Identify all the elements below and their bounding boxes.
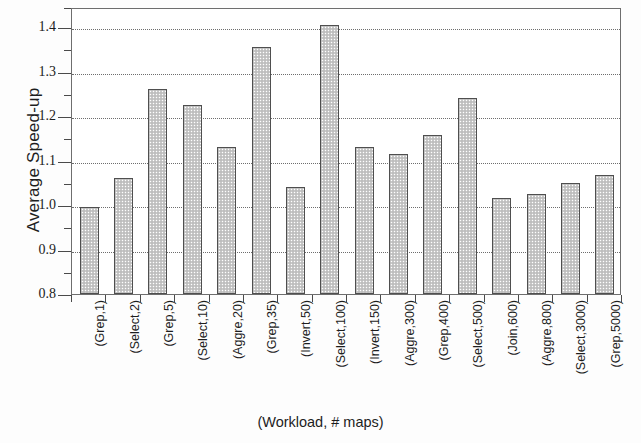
chart-figure: Average Speed-up 0.80.91.01.11.21.31.4 (…	[0, 0, 641, 443]
x-tick-label: (Select,100)	[334, 300, 348, 367]
y-tick-label: 1.3	[12, 64, 56, 80]
x-tick-label: (Invert,150)	[368, 300, 382, 364]
bar-rect	[458, 98, 477, 294]
y-tick-1-1	[58, 162, 71, 163]
y-minor-tick	[64, 50, 71, 51]
bar-rect	[217, 147, 236, 294]
y-tick-1	[58, 206, 71, 207]
y-minor-tick	[64, 95, 71, 96]
x-tick-label: (Grep,5)	[162, 300, 176, 347]
y-tick-label: 1.0	[12, 197, 56, 213]
bar-rect	[252, 47, 271, 294]
bar-series	[72, 9, 620, 294]
y-tick-label: 1.2	[12, 108, 56, 124]
plot-area	[71, 8, 621, 295]
bar-rect	[423, 135, 442, 294]
y-tick-1-4	[58, 28, 71, 29]
bar-rect	[114, 178, 133, 294]
x-axis-title: (Workload, # maps)	[0, 414, 641, 430]
x-tick-label: (Aggre,800)	[540, 300, 554, 366]
bar-rect	[148, 89, 167, 294]
y-tick-label: 0.9	[12, 242, 56, 258]
x-tick-label: (Invert,50)	[299, 300, 313, 357]
y-tick-label: 1.1	[12, 153, 56, 169]
bar-rect	[389, 154, 408, 294]
y-tick-1-2	[58, 117, 71, 118]
x-tick-label: (Select,2)	[128, 300, 142, 354]
y-minor-tick	[64, 273, 71, 274]
y-tick-label: 1.4	[12, 19, 56, 35]
x-tick-label: (Select,10)	[196, 300, 210, 360]
x-tick-label: (Grep,35)	[265, 300, 279, 354]
x-tick	[71, 295, 72, 302]
x-tick-label: (Aggre,300)	[403, 300, 417, 366]
x-tick-label: (Join,600)	[506, 300, 520, 356]
bar-rect	[595, 175, 614, 294]
bar-rect	[320, 25, 339, 294]
bar-rect	[183, 105, 202, 294]
y-tick-0-8	[58, 295, 71, 296]
y-tick-1-3	[58, 73, 71, 74]
bar-rect	[286, 187, 305, 294]
x-tick-label: (Aggre,20)	[231, 300, 245, 359]
bar-rect	[492, 198, 511, 294]
x-tick-label: (Grep,400)	[437, 300, 451, 360]
x-tick-label: (Select,500)	[471, 300, 485, 367]
x-tick-label: (Grep,5000)	[609, 300, 623, 367]
x-tick-label: (Select,3000)	[574, 300, 588, 374]
bar-rect	[80, 207, 99, 294]
bar-rect	[527, 194, 546, 294]
y-tick-0-9	[58, 251, 71, 252]
x-tick-label: (Grep,1)	[93, 300, 107, 347]
y-minor-tick	[64, 8, 71, 9]
y-minor-tick	[64, 184, 71, 185]
y-minor-tick	[64, 139, 71, 140]
y-tick-label: 0.8	[12, 286, 56, 302]
bar-rect	[355, 147, 374, 294]
y-minor-tick	[64, 228, 71, 229]
bar-rect	[561, 183, 580, 294]
